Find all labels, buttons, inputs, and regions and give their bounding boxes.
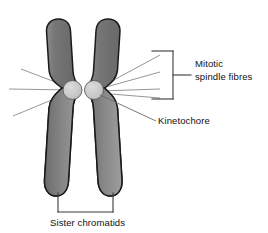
left-kinetochore-disc: [63, 81, 82, 100]
mitotic-spindle-fibres-label-line2: spindle fibres: [195, 71, 252, 84]
chromosome-figure: Mitotic spindle fibres Kinetochore Siste…: [0, 0, 268, 233]
chromatid-bracket: [58, 193, 113, 212]
diagram-canvas: [0, 0, 268, 233]
right-sister-chromatid-lower-shade: [87, 88, 123, 196]
spindle-bracket: [152, 51, 191, 99]
left-sister-chromatid-lower-shade: [44, 88, 80, 196]
mitotic-spindle-fibres-label-line1: Mitotic: [195, 58, 223, 71]
kinetochore-label: Kinetochore: [158, 115, 210, 128]
sister-chromatids-label: Sister chromatids: [50, 217, 125, 230]
right-kinetochore-disc: [85, 81, 104, 100]
